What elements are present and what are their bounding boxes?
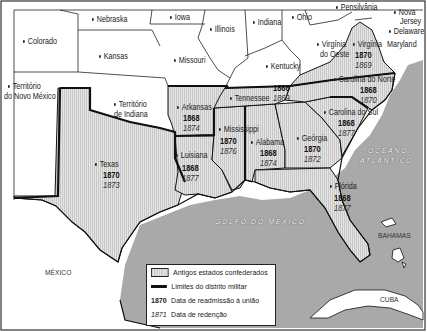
thick-line-icon (151, 285, 167, 288)
label-kentucky: Kentucky (266, 62, 300, 71)
dot-icon (394, 11, 396, 13)
label-golfo: GOLFO DO MÉXICO (215, 218, 306, 225)
carolina-norte-redemption: 1870 (360, 95, 377, 105)
dot-icon (174, 59, 176, 61)
florida-redemption: 1877 (334, 203, 351, 213)
label-virginia-oeste: Virgínia (317, 40, 346, 49)
hatch-swatch-icon (151, 268, 169, 277)
tennessee-redemption: 1869 (273, 93, 290, 103)
label-kansas: Kansas (99, 52, 128, 61)
dot-icon (251, 141, 253, 143)
dot-icon (334, 78, 336, 80)
georgia-redemption: 1872 (304, 154, 321, 164)
arkansas-readmission: 1868 (183, 113, 200, 123)
label-delaware: Delaware (389, 27, 424, 36)
tennessee-readmission: 1866 (273, 83, 290, 93)
label-texas: Texas (95, 160, 119, 169)
label-nova-jersey-2: Jersey (400, 17, 421, 26)
label-luisiana: Luisiana (176, 151, 208, 160)
dot-icon (297, 137, 299, 139)
dot-icon (336, 6, 338, 8)
label-territorio-nm: Território (8, 82, 41, 91)
arkansas-redemption: 1874 (183, 123, 200, 133)
dot-icon (353, 43, 355, 45)
label-virginia-oeste-2: do Oeste (320, 50, 349, 59)
label-carolina-norte: Carolina do Norte (334, 75, 395, 84)
virginia-readmission: 1870 (355, 50, 372, 60)
dot-icon (230, 97, 232, 99)
label-nebraska: Nebraska (92, 15, 128, 24)
label-atlantico: ATLÂNTICO (360, 157, 413, 164)
dot-icon (23, 40, 25, 42)
label-colorado: Colorado (23, 37, 57, 46)
texas-readmission: 1870 (103, 170, 120, 180)
luisiana-readmission: 1868 (182, 163, 199, 173)
label-indiana: Indiana (253, 18, 281, 27)
label-ohio: Ohio (292, 13, 312, 22)
label-bahamas: BAHAMAS (378, 231, 411, 240)
dot-icon (99, 55, 101, 57)
label-mexico: MÉXICO (45, 268, 71, 277)
legend-redemption: 1871Data de redenção (151, 310, 227, 319)
label-iowa: Iowa (170, 13, 190, 22)
mississippi-redemption: 1876 (220, 146, 237, 156)
carolina-sul-redemption: 1877 (338, 128, 355, 138)
dot-icon (8, 85, 10, 87)
dot-icon (330, 185, 332, 187)
label-oceano: OCEANO (368, 147, 408, 154)
label-nova-jersey: Nova (394, 8, 416, 17)
label-territorio-in: Território (114, 100, 147, 109)
label-cuba: CUBA (380, 295, 399, 304)
label-virginia: Virgínia (353, 40, 382, 49)
dot-icon (177, 106, 179, 108)
legend-district: Limites do distrito militar (151, 282, 247, 291)
dot-icon (266, 65, 268, 67)
alabama-readmission: 1868 (260, 148, 277, 158)
label-illinois: Illinois (210, 25, 235, 34)
dot-icon (219, 128, 221, 130)
dot-icon (92, 18, 94, 20)
dot-icon (114, 103, 116, 105)
label-florida: Flórida (330, 182, 357, 191)
florida-readmission: 1868 (334, 193, 351, 203)
dot-icon (253, 21, 255, 23)
mississippi-readmission: 1870 (220, 136, 237, 146)
georgia-readmission: 1870 (304, 144, 321, 154)
dot-icon (317, 43, 319, 45)
dot-icon (170, 16, 172, 18)
dot-icon (210, 28, 212, 30)
label-territorio-nm-2: do Novo México (4, 92, 56, 101)
label-georgia: Geórgia (297, 134, 327, 143)
dot-icon (292, 16, 294, 18)
map-legend: Antigos estados confederados Limites do … (146, 264, 276, 326)
dot-icon (95, 163, 97, 165)
reconstruction-map: Nebraska Iowa Illinois Indiana Ohio Pens… (0, 0, 427, 332)
label-territorio-in-2: de Indiana (114, 110, 148, 119)
alabama-redemption: 1874 (260, 158, 277, 168)
texas-redemption: 1873 (103, 180, 120, 190)
dot-icon (389, 30, 391, 32)
label-mississippi: Mississippi (219, 125, 259, 134)
luisiana-redemption: 1877 (182, 173, 199, 183)
label-tennessee: Tennessee (230, 94, 270, 103)
label-maryland: Maryland (387, 40, 417, 49)
label-pensilvania: Pensilvânia (336, 3, 378, 12)
carolina-norte-readmission: 1868 (360, 85, 377, 95)
dot-icon (324, 111, 326, 113)
virginia-redemption: 1869 (355, 60, 372, 70)
label-arkansas: Arkansas (177, 103, 212, 112)
legend-confederate: Antigos estados confederados (151, 268, 268, 277)
label-missouri: Missouri (174, 56, 206, 65)
legend-readmission: 1870Data de readmissão à união (151, 296, 259, 305)
carolina-sul-readmission: 1868 (338, 118, 355, 128)
label-alabama: Alabama (251, 138, 284, 147)
dot-icon (176, 154, 178, 156)
label-carolina-sul: Carolina do Sul (324, 108, 378, 117)
